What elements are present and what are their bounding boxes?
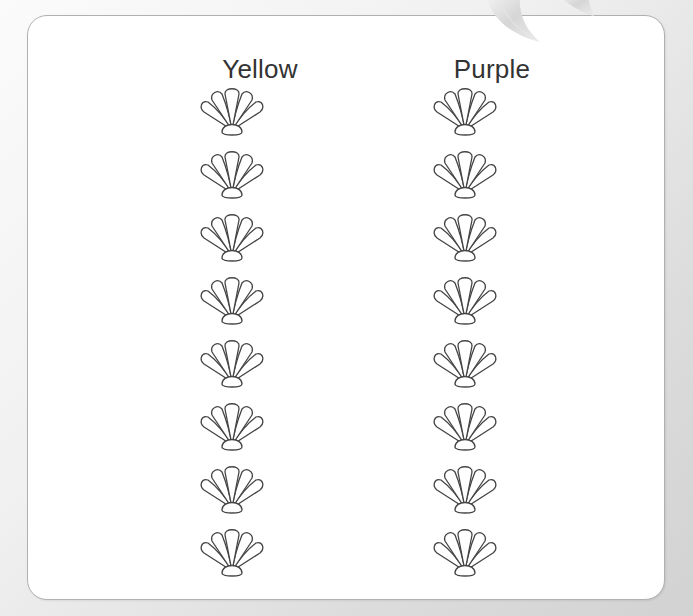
seashell-icon — [431, 212, 499, 264]
column-heading-yellow: Yellow — [180, 54, 340, 85]
seashell-icon — [431, 86, 499, 138]
seashell-icon — [198, 527, 266, 579]
seashell-icon — [431, 527, 499, 579]
worksheet-card: Yellow Purple — [27, 15, 665, 600]
column-heading-purple: Purple — [412, 54, 572, 85]
shell-column-purple — [431, 86, 499, 590]
seashell-icon — [198, 401, 266, 453]
shell-column-yellow — [198, 86, 266, 590]
seashell-icon — [431, 149, 499, 201]
seashell-icon — [431, 338, 499, 390]
seashell-icon — [431, 401, 499, 453]
seashell-icon — [198, 338, 266, 390]
seashell-icon — [431, 275, 499, 327]
seashell-icon — [198, 275, 266, 327]
seashell-icon — [198, 212, 266, 264]
seashell-icon — [431, 464, 499, 516]
seashell-icon — [198, 464, 266, 516]
seashell-icon — [198, 149, 266, 201]
seashell-icon — [198, 86, 266, 138]
